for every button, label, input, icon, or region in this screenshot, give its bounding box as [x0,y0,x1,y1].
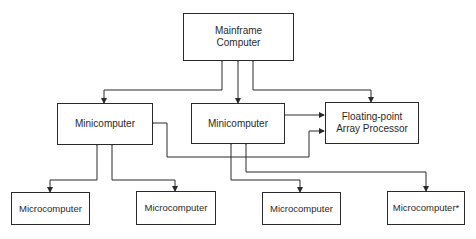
edge-mainframe-fp [253,61,371,102]
microcomputer-2-node: Microcomputer [136,191,216,225]
edge-mini-left-micro2 [112,145,175,191]
fp-label-line1: Floating-point [336,111,408,123]
mainframe-label-line2: Computer [215,37,262,49]
minicomputer-left-node: Minicomputer [57,103,153,145]
microcomputer-3-node: Microcomputer [262,192,341,225]
edge-mini-center-micro4 [246,144,426,191]
microcomputer-1-label: Microcomputer [19,203,82,215]
edge-mini-center-micro3 [231,144,300,192]
mainframe-computer-node: Mainframe Computer [183,13,294,61]
fp-label-line2: Array Processor [336,123,408,135]
mainframe-label-line1: Mainframe [215,25,262,37]
minicomputer-center-node: Minicomputer [191,103,285,144]
microcomputer-2-label: Microcomputer [145,202,208,214]
microcomputer-1-node: Microcomputer [11,192,90,225]
minicomputer-center-label: Minicomputer [208,118,268,130]
microcomputer-3-label: Microcomputer [270,203,333,215]
edge-mini-left-micro1 [50,145,97,192]
floating-point-array-processor-node: Floating-point Array Processor [325,102,419,144]
microcomputer-4-label: Microcomputer* [393,202,460,214]
minicomputer-left-label: Minicomputer [75,118,135,130]
microcomputer-4-node: Microcomputer* [387,191,465,225]
edge-mainframe-mini-left [104,61,222,103]
